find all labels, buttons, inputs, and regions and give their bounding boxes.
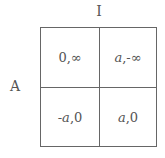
payoff-values: ,-∞ (122, 50, 141, 65)
payoff-cell-r1-c0: - a,0 (41, 88, 100, 146)
payoff-variable: a (114, 50, 122, 65)
payoff-variable: a (62, 110, 70, 125)
payoff-matrix: 0,∞ a,-∞ - a,0 a,0 (40, 27, 157, 147)
row-player-label: A (8, 78, 22, 94)
payoff-cell-r1-c1: a,0 (100, 88, 156, 146)
payoff-cell-r0-c1: a,-∞ (100, 28, 156, 88)
payoff-values: ,0 (70, 110, 82, 125)
payoff-variable: a (118, 110, 126, 125)
payoff-values: 0,∞ (58, 50, 81, 65)
payoff-cell-r0-c0: 0,∞ (41, 28, 100, 88)
payoff-values: ,0 (126, 110, 138, 125)
column-player-label: I (93, 3, 105, 19)
